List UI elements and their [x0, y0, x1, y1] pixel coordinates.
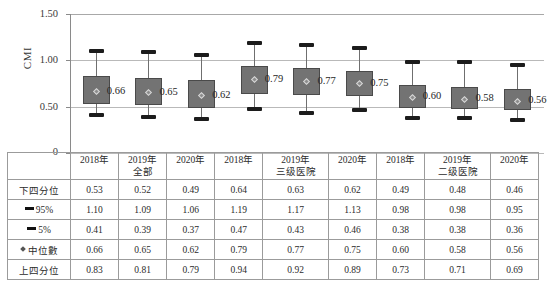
table-cell: 0.58 — [425, 240, 491, 260]
table-col-header-1: 2018年 — [71, 153, 119, 180]
table-cell: 0.81 — [119, 260, 167, 280]
table-cell: 0.62 — [329, 180, 377, 200]
table-cell: 0.47 — [215, 220, 263, 240]
whisker-cap-lower — [89, 113, 104, 117]
table-cell: 0.49 — [167, 180, 215, 200]
y-tick-label-150: 1.50 — [20, 8, 58, 19]
box-plot-2: 0.65 — [123, 0, 176, 155]
table-cell: 0.38 — [377, 220, 425, 240]
row-label-2: 95% — [8, 200, 71, 220]
whisker-cap-upper — [352, 46, 367, 50]
whisker-cap-lower — [194, 117, 209, 121]
table-cell: 0.92 — [263, 260, 329, 280]
table-cell: 0.77 — [263, 240, 329, 260]
table-cell: 0.69 — [490, 260, 538, 280]
table-cell: 0.41 — [71, 220, 119, 240]
whisker-cap-lower — [352, 108, 367, 112]
whisker-cap-upper — [457, 60, 472, 64]
row-label-text: 上四分位 — [19, 266, 59, 276]
col-header-group: 二级医院 — [425, 166, 490, 178]
table-row: 5%0.410.390.370.470.430.460.380.380.36 — [8, 220, 539, 240]
table-cell: 0.62 — [167, 240, 215, 260]
row-label-text: 中位數 — [28, 246, 58, 256]
table-row: 中位數0.660.650.620.790.770.750.600.580.56 — [8, 240, 539, 260]
col-header-year: 2020年 — [167, 154, 214, 166]
table-cell: 0.73 — [377, 260, 425, 280]
plot-region: 0.660.650.620.790.770.750.600.580.56 — [70, 0, 544, 155]
table-row: 下四分位0.530.520.490.640.630.620.490.480.46 — [8, 180, 539, 200]
table-cell: 0.94 — [215, 260, 263, 280]
row-label-text: 下四分位 — [19, 186, 59, 196]
table-cell: 0.37 — [167, 220, 215, 240]
col-header-year: 2018年 — [215, 154, 262, 166]
figure-caption — [0, 283, 546, 290]
whisker-cap-lower — [510, 118, 525, 122]
row-label-5: 上四分位 — [8, 260, 71, 280]
statistics-table: 2018年 2019年全部2020年 2018年 2019年三级医院2020年 … — [7, 152, 539, 280]
whisker-cap-upper — [141, 50, 156, 54]
table-cell: 0.79 — [167, 260, 215, 280]
col-header-year: 2018年 — [377, 154, 424, 166]
table-col-header-6: 2020年 — [329, 153, 377, 180]
row-label-4: 中位數 — [8, 240, 71, 260]
col-header-year: 2019年 — [119, 154, 166, 166]
box-plot-7: 0.60 — [386, 0, 439, 155]
whisker-cap-upper — [194, 53, 209, 57]
table-cell: 0.65 — [119, 240, 167, 260]
row-label-text: 5% — [38, 225, 51, 235]
col-header-year: 2020年 — [491, 154, 538, 166]
whisker-cap-upper — [405, 60, 420, 64]
y-tick-label-050: 0.50 — [20, 101, 58, 112]
table-col-header-8: 2019年二级医院 — [425, 153, 491, 180]
col-header-group: 三级医院 — [263, 166, 328, 178]
table-cell: 0.49 — [377, 180, 425, 200]
table-corner-cell — [8, 153, 71, 180]
col-header-group: 全部 — [119, 166, 166, 178]
table-cell: 0.46 — [490, 180, 538, 200]
table-cell: 0.98 — [377, 200, 425, 220]
row-label-text: 95% — [36, 205, 53, 215]
table-cell: 0.48 — [425, 180, 491, 200]
col-header-year: 2019年 — [425, 154, 490, 166]
whisker-cap-upper — [247, 41, 262, 45]
table-cell: 0.89 — [329, 260, 377, 280]
table-cell: 1.19 — [215, 200, 263, 220]
table-col-header-5: 2019年三级医院 — [263, 153, 329, 180]
row-label-1: 下四分位 — [8, 180, 71, 200]
table-cell: 0.56 — [490, 240, 538, 260]
dash-marker-icon — [27, 227, 36, 230]
table-col-header-3: 2020年 — [167, 153, 215, 180]
col-header-year: 2019年 — [263, 154, 328, 166]
table-cell: 1.13 — [329, 200, 377, 220]
whisker-cap-upper — [89, 49, 104, 53]
table-cell: 0.83 — [71, 260, 119, 280]
table-cell: 0.75 — [329, 240, 377, 260]
whisker-cap-lower — [141, 115, 156, 119]
y-tick-label-100: 1.00 — [20, 54, 58, 65]
table-cell: 1.10 — [71, 200, 119, 220]
whisker-cap-upper — [510, 63, 525, 67]
median-value-label: 0.56 — [528, 94, 546, 105]
table-col-header-7: 2018年 — [377, 153, 425, 180]
table-cell: 0.53 — [71, 180, 119, 200]
table-header-row: 2018年 2019年全部2020年 2018年 2019年三级医院2020年 … — [8, 153, 539, 180]
box-plot-9: 0.56 — [491, 0, 544, 155]
box-plot-1: 0.66 — [70, 0, 123, 155]
box-plot-3: 0.62 — [175, 0, 228, 155]
box-plot-6: 0.75 — [333, 0, 386, 155]
table-cell: 0.39 — [119, 220, 167, 240]
table-cell: 0.79 — [215, 240, 263, 260]
box-plot-4: 0.79 — [228, 0, 281, 155]
table-cell: 1.06 — [167, 200, 215, 220]
diamond-marker-icon — [20, 246, 26, 252]
table-cell: 0.64 — [215, 180, 263, 200]
col-header-year: 2020年 — [329, 154, 376, 166]
whisker-cap-upper — [299, 43, 314, 47]
table-col-header-9: 2020年 — [490, 153, 538, 180]
whisker-cap-lower — [247, 107, 262, 111]
table-col-header-2: 2019年全部 — [119, 153, 167, 180]
table-cell: 0.46 — [329, 220, 377, 240]
table-cell: 0.36 — [490, 220, 538, 240]
table-cell: 0.60 — [377, 240, 425, 260]
table-cell: 0.98 — [425, 200, 491, 220]
